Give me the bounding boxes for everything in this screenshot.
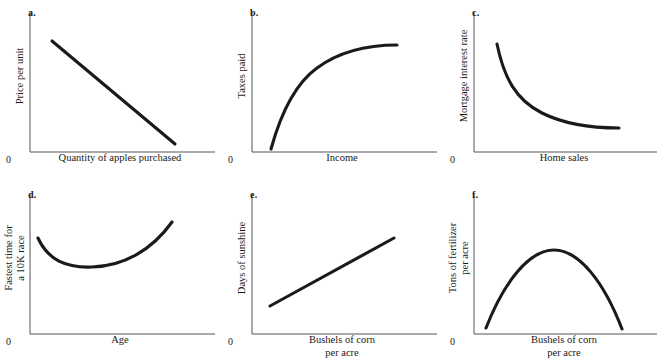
panel-a-y-axis-label-line-1: Price per unit [14,48,27,105]
six-panel-relationship-figure: a. 0 Price per unit Quantity of apples p… [0,0,664,364]
panel-a-y-axis-label: Price per unit [0,16,96,136]
panel-d-y-axis-label-line-1: Fastest time for [3,225,16,290]
panel-e-y-axis-label-line-1: Days of sunshine [236,222,249,294]
panel-d-zero-label: 0 [6,336,11,347]
panel-d-y-axis-label: Fastest time for a 10K race [0,198,91,318]
panel-c-y-axis-label: Mortgage interest rate [388,16,540,136]
panel-d-y-axis-label-line-2: a 10K race [15,235,28,280]
panel-e-x-axis-label-line-2: per acre [246,347,438,360]
panel-e-y-axis-label: Days of sunshine [166,198,318,318]
panel-a-zero-label: 0 [6,154,11,165]
panel-b-x-axis-label-line-1: Income [246,152,438,165]
panel-f-y-axis-label: Tons of fertilizer per acre [383,198,535,318]
panel-a-x-axis-label: Quantity of apples purchased [24,152,216,165]
panel-e-x-axis-label-line-1: Bushels of corn [246,334,438,347]
panel-c-x-axis-label-line-1: Home sales [468,152,660,165]
panel-c-zero-label: 0 [450,154,455,165]
panel-f-y-axis-label-line-2: per acre [459,241,472,275]
panel-c-y-axis-label-line-1: Mortgage interest rate [458,30,471,123]
panel-c-x-axis-label: Home sales [468,152,660,165]
panel-f-zero-label: 0 [450,336,455,347]
panel-d-x-axis-label: Age [24,334,216,347]
panel-f: f. 0 Tons of fertilizer per acre Bushels… [444,182,664,364]
panel-b-zero-label: 0 [228,154,233,165]
panel-f-x-axis-label: Bushels of corn per acre [468,334,660,359]
panel-f-x-axis-label-line-2: per acre [468,347,660,360]
panel-a-x-axis-label-line-1: Quantity of apples purchased [24,152,216,165]
panel-b-y-axis-label: Taxes paid [166,16,318,136]
panel-b-x-axis-label: Income [246,152,438,165]
panel-b-y-axis-label-line-1: Taxes paid [236,53,249,98]
panel-c: c. 0 Mortgage interest rate Home sales [444,0,664,182]
panel-d-x-axis-label-line-1: Age [24,334,216,347]
panel-f-y-axis-label-line-1: Tons of fertilizer [447,223,460,293]
panel-e-zero-label: 0 [228,336,233,347]
panel-f-x-axis-label-line-1: Bushels of corn [468,334,660,347]
panel-e-x-axis-label: Bushels of corn per acre [246,334,438,359]
